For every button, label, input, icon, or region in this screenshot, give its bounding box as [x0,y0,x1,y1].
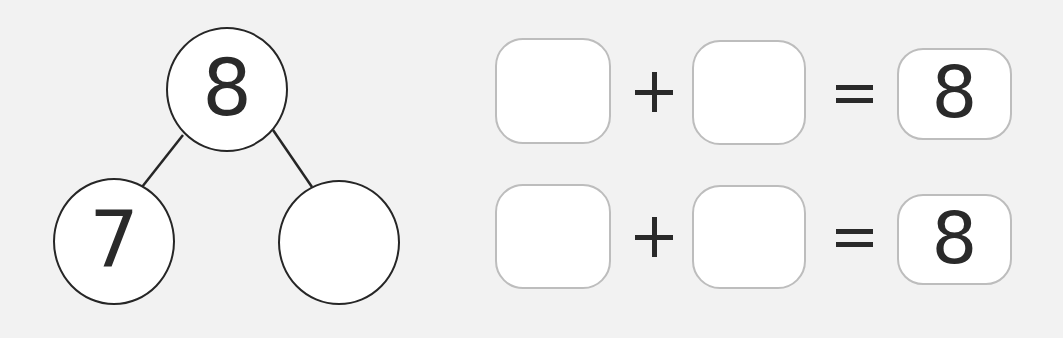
bond-line-right [273,130,312,187]
equation-1-sum-value: 8 [932,56,978,128]
bond-part-left-circle: 7 [53,178,175,305]
bond-part-right-circle[interactable] [278,180,400,305]
bond-part-left-value: 7 [89,201,139,279]
equals-icon: = [836,229,873,247]
plus-icon: + [635,72,673,112]
equals-icon: = [836,85,873,103]
equation-2-addend-1-box[interactable] [495,184,611,289]
equation-1-addend-2-box[interactable] [692,40,806,145]
equation-2-addend-2-box[interactable] [692,185,806,289]
bond-whole-value: 8 [202,49,252,127]
bond-whole-circle: 8 [166,27,288,152]
bond-line-left [142,135,183,187]
plus-icon: + [635,217,673,257]
equation-1-sum-box: 8 [897,48,1012,140]
equation-1-addend-1-box[interactable] [495,38,611,144]
equation-2-sum-value: 8 [932,202,978,274]
equation-2-sum-box: 8 [897,194,1012,285]
